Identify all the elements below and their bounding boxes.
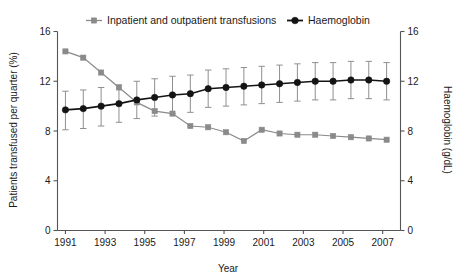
error-bars [62,61,390,129]
data-point-marker [134,97,140,103]
data-point-marker [330,78,336,84]
data-point-marker [151,94,157,100]
chart-axes: 0481216048121619911993199519971999200120… [39,26,419,247]
data-point-marker [295,132,300,137]
x-axis-tick-label: 2005 [332,237,355,248]
x-axis-tick-label: 1991 [54,237,77,248]
data-point-marker [241,138,246,143]
chart-canvas: Inpatient and outpatient transfusionsHae… [0,0,459,279]
data-point-marker [384,137,389,142]
chart-figure: Inpatient and outpatient transfusionsHae… [0,0,459,279]
y-axis-tick-label: 16 [39,26,51,37]
data-point-marker [383,78,389,84]
data-point-marker [223,84,229,90]
data-point-marker [348,135,353,140]
data-point-marker [276,81,282,87]
data-point-marker [223,130,228,135]
data-point-marker [187,90,193,96]
data-point-marker [116,100,122,106]
data-point-marker [98,103,104,109]
data-point-marker [259,127,264,132]
data-point-marker [348,77,354,83]
y2-axis-tick-label: 0 [408,225,414,236]
data-point-marker [62,107,68,113]
legend-item: Haemoglobin [287,14,370,26]
x-axis-tick-label: 1999 [213,237,236,248]
y-axis-tick-label: 8 [45,126,51,137]
legend-marker-square [91,18,96,23]
legend-item: Inpatient and outpatient transfusions [86,14,276,26]
data-point-marker [366,77,372,83]
data-point-marker [312,78,318,84]
data-point-marker [206,125,211,130]
data-point-marker [188,123,193,128]
chart-legend: Inpatient and outpatient transfusionsHae… [86,14,370,26]
data-point-marker [313,132,318,137]
legend-label: Inpatient and outpatient transfusions [107,14,276,26]
data-point-marker [80,105,86,111]
x-axis-tick-label: 2007 [372,237,395,248]
x-axis-tick-label: 1995 [134,237,157,248]
y2-axis-tick-label: 8 [408,126,414,137]
y2-axis-tick-label: 16 [408,26,420,37]
data-point-marker [63,49,68,54]
data-point-marker [259,82,265,88]
data-point-marker [241,83,247,89]
legend-marker-circle [292,17,299,24]
x-axis-tick-label: 1997 [173,237,196,248]
chart-series [62,49,390,144]
legend-label: Haemoglobin [308,14,370,26]
y-axis-tick-label: 4 [45,175,51,186]
data-point-marker [277,131,282,136]
data-series [62,61,390,129]
x-axis-tick-label: 2001 [253,237,276,248]
y-axis-tick-label: 0 [45,225,51,236]
data-point-marker [99,70,104,75]
x-axis-tick-label: 1993 [94,237,117,248]
y-axis-tick-label: 12 [39,76,51,87]
data-point-marker [205,86,211,92]
data-point-marker [81,55,86,60]
y2-axis-tick-label: 4 [408,175,414,186]
data-point-marker [366,136,371,141]
data-point-marker [294,79,300,85]
y-axis-title: Patients transfused per quarter (%) [8,52,19,208]
y2-axis-tick-label: 12 [408,76,420,87]
x-axis-tick-label: 2003 [292,237,315,248]
data-point-marker [169,92,175,98]
x-axis-title: Year [218,263,239,274]
y2-axis-title: Haemoglobin (g/dL) [442,86,453,174]
data-point-marker [330,133,335,138]
